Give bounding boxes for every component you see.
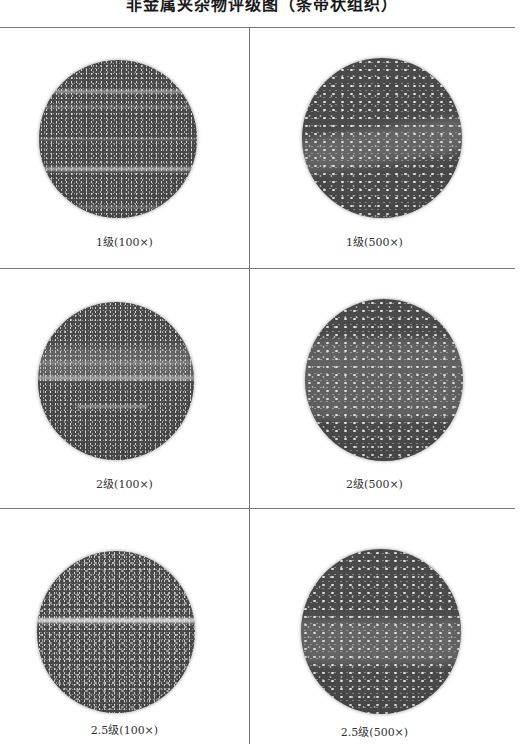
cell-grade2-500x: 2级(500×) bbox=[250, 269, 499, 507]
micrograph-image bbox=[39, 60, 197, 218]
micrograph-image bbox=[37, 551, 195, 713]
micrograph-caption: 2级(500×) bbox=[250, 475, 499, 491]
micrograph-image bbox=[302, 58, 462, 218]
micrograph-image bbox=[301, 549, 461, 714]
cell-grade1-500x: 1级(500×) bbox=[250, 28, 499, 266]
cell-grade1-100x: 1级(100×) bbox=[0, 28, 249, 266]
micrograph-caption: 2.5级(500×) bbox=[250, 723, 499, 739]
micrograph-image bbox=[305, 299, 463, 461]
cell-grade2-100x: 2级(100×) bbox=[0, 269, 249, 507]
micrograph-image bbox=[38, 302, 194, 460]
micrograph-caption: 1级(500×) bbox=[250, 233, 499, 249]
micrograph-caption: 1级(100×) bbox=[0, 233, 249, 249]
page-title: 非金属夹杂物评级图（条带状组织） bbox=[0, 0, 523, 15]
cell-grade2.5-500x: 2.5级(500×) bbox=[250, 509, 499, 744]
cell-grade2.5-100x: 2.5级(100×) bbox=[0, 509, 249, 744]
micrograph-caption: 2级(100×) bbox=[0, 475, 249, 491]
micrograph-grid: 1级(100×) 1级(500×) 2级(100×) 2级(500×) bbox=[0, 27, 515, 744]
micrograph-caption: 2.5级(100×) bbox=[0, 721, 249, 737]
